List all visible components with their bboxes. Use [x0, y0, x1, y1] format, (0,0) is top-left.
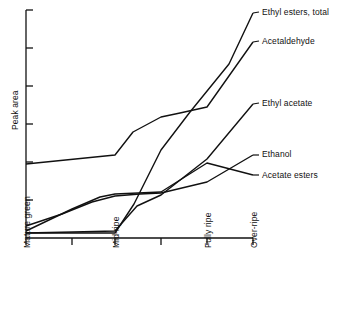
- series-label-ethyl-esters-total: Ethyl esters, total: [262, 7, 329, 17]
- series-label-ethanol: Ethanol: [262, 149, 292, 159]
- series-line-ethyl-acetate: [26, 104, 253, 233]
- y-axis-title: Peak area: [10, 90, 20, 130]
- series-label-acetaldehyde: Acetaldehyde: [262, 36, 315, 46]
- series-line-acetate-esters: [26, 163, 253, 231]
- series-label-ethyl-acetate: Ethyl acetate: [262, 98, 312, 108]
- series-leader-lines: [253, 12, 259, 175]
- line-chart-plot: [0, 0, 345, 311]
- chart-figure: Peak area Mature green Mid-ripe Fully ri…: [0, 0, 345, 311]
- x-tick-label-mature-green: Mature green: [22, 196, 32, 248]
- x-tick-label-fully-ripe: Fully ripe: [203, 213, 213, 248]
- series-line-ethyl-esters-total: [26, 13, 253, 233]
- x-axis-ticks: [26, 238, 253, 245]
- y-axis-ticks: [26, 10, 33, 200]
- x-tick-label-mid-ripe: Mid-ripe: [111, 216, 121, 248]
- x-tick-label-over-ripe: Over-ripe: [249, 212, 259, 248]
- series-label-acetate-esters: Acetate esters: [262, 170, 318, 180]
